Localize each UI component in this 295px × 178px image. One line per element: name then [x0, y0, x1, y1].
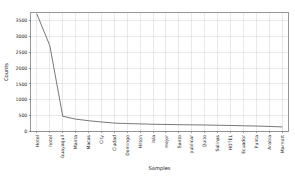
x-axis-title: Samples	[148, 165, 170, 172]
line-chart: 0500100015002000250030003500 HotelhotelG…	[0, 0, 295, 178]
x-tick-label: Salinas	[215, 134, 220, 151]
x-tick-label: Marriott	[280, 135, 285, 153]
x-tick-label: Santo	[177, 135, 182, 148]
x-tick-label: mejor	[164, 135, 169, 148]
x-tick-label: Guayaquil	[60, 135, 65, 158]
x-tick-label: Arabia	[267, 135, 272, 150]
x-tick-label: Quito	[202, 135, 207, 148]
x-tick-label: Manta	[73, 135, 78, 149]
chart-container: 0500100015002000250030003500 HotelhotelG…	[0, 0, 295, 178]
x-tick-label: Isla	[151, 135, 156, 143]
y-tick-label: 2500	[16, 50, 28, 55]
x-tick-label: Ciudad	[112, 135, 117, 151]
chart-background	[0, 0, 295, 178]
x-tick-label: Hilton	[138, 135, 143, 149]
x-tick-label: Macas	[86, 134, 91, 149]
x-tick-label: Ecuador	[241, 135, 246, 154]
y-tick-label: 3000	[16, 34, 28, 39]
y-tick-label: 500	[19, 113, 28, 118]
x-tick-label: Domingo	[125, 135, 130, 156]
y-tick-label: 3500	[16, 18, 28, 23]
y-axis-title: Counts	[3, 63, 9, 81]
x-tick-label: hotel	[48, 135, 53, 147]
y-tick-label: 0	[24, 129, 27, 134]
y-tick-label: 1500	[16, 82, 28, 87]
y-tick-label: 1000	[16, 97, 28, 102]
x-tick-label: City	[99, 135, 104, 144]
y-tick-label: 2000	[16, 66, 28, 71]
x-tick-label: publicar	[189, 135, 194, 154]
x-tick-label: Hotel	[35, 135, 40, 147]
x-tick-label: HOTEL	[228, 135, 233, 151]
x-tick-label: Punta	[254, 135, 259, 148]
